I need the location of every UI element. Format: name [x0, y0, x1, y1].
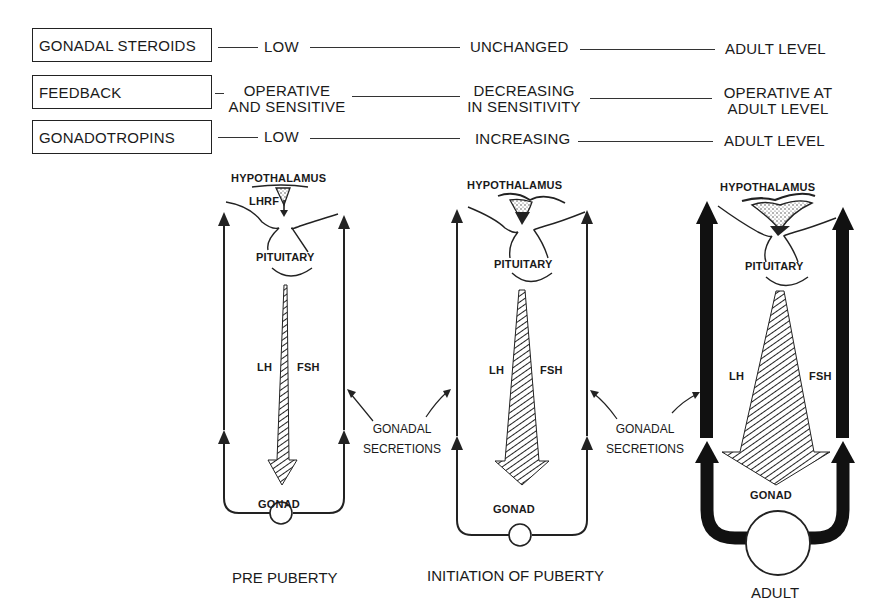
- hypothalamus-icon: [498, 194, 565, 225]
- panel-caption-initiation-of-puberty: INITIATION OF PUBERTY: [427, 567, 604, 584]
- gonadal-secretions-pointers-2: [590, 390, 700, 419]
- gonadotropin-arrow-icon: [268, 285, 297, 485]
- panel-caption-pre-puberty: PRE PUBERTY: [232, 569, 338, 586]
- arrow-up-icon: [695, 441, 719, 463]
- arrow-up-icon: [338, 430, 350, 444]
- gonadal-secretions-label-1: GONADAL SECRETIONS: [360, 419, 444, 459]
- fsh-label: FSH: [540, 364, 563, 376]
- gonadotropin-arrow-icon: [722, 291, 830, 485]
- panel-caption-adult: ADULT: [751, 584, 799, 601]
- arrow-up-icon: [581, 436, 593, 450]
- gonadotropin-arrow-icon: [495, 290, 549, 485]
- arrow-up-icon: [451, 436, 463, 450]
- gonadal-secretions-line1: GONADAL: [360, 419, 444, 439]
- lh-label: LH: [257, 361, 272, 373]
- gonad-label: GONAD: [258, 498, 300, 510]
- gonad-label: GONAD: [750, 489, 792, 501]
- gonad-icon: [509, 524, 531, 546]
- pituitary-label: PITUITARY: [494, 258, 553, 270]
- pituitary-label: PITUITARY: [745, 260, 804, 272]
- gonadal-secretions-label-2: GONADAL SECRETIONS: [603, 419, 687, 459]
- lhrf-label: LHRF: [249, 195, 279, 207]
- hypothalamus-label: HYPOTHALAMUS: [467, 179, 562, 191]
- arrow-up-icon: [218, 430, 230, 444]
- lh-label: LH: [729, 370, 744, 382]
- arrow-up-icon: [218, 212, 230, 226]
- arrow-up-icon: [831, 441, 855, 463]
- panel-initiation-of-puberty: [451, 194, 593, 546]
- pituitary-icon: [468, 207, 585, 282]
- pituitary-label: PITUITARY: [256, 251, 315, 263]
- gonadal-secretions-line2: SECRETIONS: [603, 439, 687, 459]
- arrow-up-icon: [338, 215, 350, 229]
- arrow-up-icon: [581, 210, 593, 224]
- hypothalamus-label: HYPOTHALAMUS: [231, 172, 326, 184]
- arrow-up-icon: [696, 201, 718, 224]
- gonadal-secretions-line2: SECRETIONS: [360, 439, 444, 459]
- hypothalamus-label: HYPOTHALAMUS: [720, 181, 815, 193]
- panel-adult: [695, 194, 855, 575]
- axis-diagram: [0, 0, 876, 613]
- gonad-icon: [746, 511, 810, 575]
- panel-pre-puberty: [218, 185, 350, 524]
- fsh-label: FSH: [809, 370, 832, 382]
- lh-label: LH: [489, 364, 504, 376]
- arrow-up-icon: [451, 209, 463, 223]
- gonadal-secretions-pointers-1: [347, 389, 451, 421]
- gonadal-secretions-line1: GONADAL: [603, 419, 687, 439]
- gonad-label: GONAD: [493, 503, 535, 515]
- fsh-label: FSH: [297, 361, 320, 373]
